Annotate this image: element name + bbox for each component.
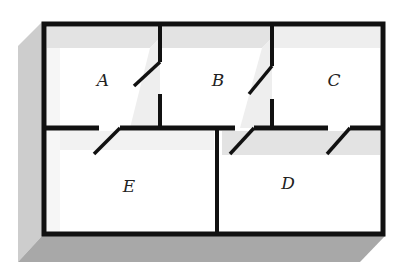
room-label-e: E bbox=[122, 176, 136, 196]
shade-room-a bbox=[47, 27, 160, 48]
room-label-a: A bbox=[95, 70, 109, 90]
shade-left-inner bbox=[47, 48, 60, 236]
room-label-b: B bbox=[211, 70, 225, 90]
shade-room-c bbox=[272, 27, 380, 48]
shade-room-b bbox=[160, 27, 272, 48]
room-label-c: C bbox=[327, 70, 340, 90]
left-depth-shade bbox=[18, 22, 42, 262]
shade-room-e bbox=[47, 131, 214, 150]
bottom-depth-shade bbox=[18, 236, 385, 262]
room-label-d: D bbox=[280, 173, 295, 193]
floor-plan-diagram: A B C E D bbox=[0, 0, 401, 272]
